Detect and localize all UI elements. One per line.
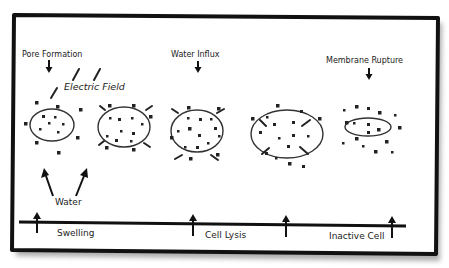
stage-label-swelling: Swelling — [57, 228, 95, 238]
label-membrane-rupture: Membrane Rupture — [326, 56, 403, 65]
label-water: Water — [55, 197, 82, 207]
label-pore-formation: Pore Formation — [22, 50, 82, 59]
label-water-influx: Water Influx — [171, 50, 220, 59]
stage-label-cell-lysis: Cell Lysis — [205, 230, 246, 240]
stage-label-inactive-cell: Inactive Cell — [329, 231, 384, 241]
label-electric-field: Electric Field — [64, 81, 126, 92]
electroporation-diagram: Pore Formation Electric Field Water Infl… — [0, 0, 449, 268]
